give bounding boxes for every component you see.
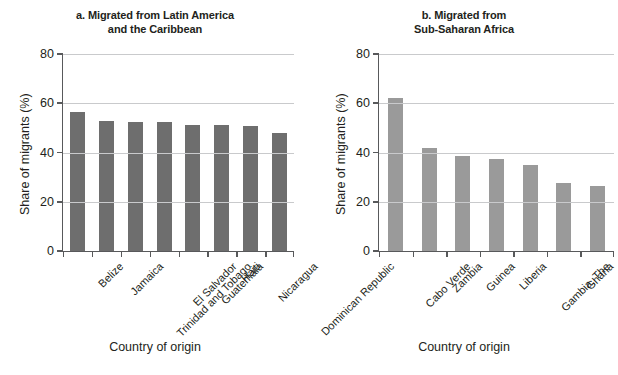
y-axis-tick — [57, 102, 63, 104]
y-axis-tick-label: 20 — [356, 195, 370, 209]
bar — [556, 183, 571, 251]
panel-a-title-line1: a. Migrated from Latin America — [76, 9, 234, 21]
x-axis-tick — [236, 251, 237, 257]
panel-b-title-line1: b. Migrated from — [422, 9, 507, 21]
y-axis-tick-label: 40 — [40, 146, 54, 160]
x-axis-tick — [179, 251, 180, 257]
x-axis-category-label: Liberia — [516, 260, 548, 292]
bar — [388, 98, 403, 251]
x-axis-tick — [207, 251, 208, 257]
chart-panel-a: a. Migrated from Latin America and the C… — [0, 0, 310, 375]
y-axis-tick — [373, 152, 379, 154]
x-axis-tick — [121, 251, 122, 257]
x-axis-tick — [379, 251, 380, 257]
bar — [185, 125, 200, 251]
gridline — [63, 103, 294, 104]
y-axis-tick — [57, 201, 63, 203]
x-axis-tick — [613, 251, 614, 257]
bar — [243, 126, 258, 251]
panel-a-plot-area: 020406080BelizeJamaicaTrinidad and Tobag… — [62, 54, 294, 252]
y-axis-tick-label: 40 — [356, 146, 370, 160]
gridline — [379, 153, 614, 154]
y-axis-tick — [373, 53, 379, 55]
x-axis-category-label: Belize — [96, 260, 126, 290]
y-axis-tick — [373, 102, 379, 104]
x-axis-tick — [413, 251, 414, 257]
y-axis-tick-label: 80 — [356, 47, 370, 61]
gridline — [63, 54, 294, 55]
x-axis-category-label: Guinea — [483, 260, 517, 294]
panel-a-title: a. Migrated from Latin America and the C… — [0, 8, 310, 36]
x-axis-tick — [150, 251, 151, 257]
y-axis-tick-label: 20 — [40, 195, 54, 209]
y-axis-tick-label: 60 — [40, 96, 54, 110]
gridline — [63, 202, 294, 203]
chart-panel-b: b. Migrated from Sub-Saharan Africa Shar… — [310, 0, 618, 375]
panel-b-category-labels: Cabo VerdeZambiaGuineaLiberiaGambia, The… — [379, 260, 614, 350]
x-axis-tick — [513, 251, 514, 257]
bar — [422, 148, 437, 251]
y-axis-tick — [57, 152, 63, 154]
bar — [272, 133, 287, 251]
panel-a-x-axis-label: Country of origin — [0, 340, 310, 354]
y-axis-tick — [57, 53, 63, 55]
x-axis-tick — [480, 251, 481, 257]
two-panel-bar-chart-figure: a. Migrated from Latin America and the C… — [0, 0, 618, 375]
panel-b-title-line2: Sub-Saharan Africa — [310, 22, 618, 36]
x-axis-tick — [446, 251, 447, 257]
y-axis-tick-label: 80 — [40, 47, 54, 61]
bar — [523, 165, 538, 251]
x-axis-tick — [92, 251, 93, 257]
bar — [128, 122, 143, 251]
y-axis-tick-label: 60 — [356, 96, 370, 110]
panel-a-category-labels: BelizeJamaicaTrinidad and TobagoEl Salva… — [63, 260, 294, 350]
x-axis-category-label: Jamaica — [128, 260, 165, 297]
gridline — [379, 103, 614, 104]
gridline — [63, 153, 294, 154]
gridline — [379, 54, 614, 55]
bar — [157, 122, 172, 251]
bar — [590, 186, 605, 251]
x-axis-tick — [265, 251, 266, 257]
x-axis-tick — [547, 251, 548, 257]
bar — [455, 156, 470, 251]
bar — [70, 112, 85, 251]
y-axis-tick-label: 0 — [363, 244, 370, 258]
bar — [489, 159, 504, 251]
y-axis-tick-label: 0 — [47, 244, 54, 258]
panel-a-y-axis-label: Share of migrants (%) — [18, 93, 32, 215]
y-axis-tick — [373, 201, 379, 203]
panel-a-title-line2: and the Caribbean — [0, 22, 310, 36]
bar — [214, 125, 229, 251]
gridline — [379, 202, 614, 203]
x-axis-tick — [293, 251, 294, 257]
panel-b-x-axis-label: Country of origin — [310, 340, 618, 354]
x-axis-tick — [580, 251, 581, 257]
panel-b-title: b. Migrated from Sub-Saharan Africa — [310, 8, 618, 36]
panel-b-plot-area: 020406080Cabo VerdeZambiaGuineaLiberiaGa… — [378, 54, 614, 252]
x-axis-tick — [63, 251, 64, 257]
panel-b-y-axis-label: Share of migrants (%) — [334, 93, 348, 215]
bar — [99, 121, 114, 252]
